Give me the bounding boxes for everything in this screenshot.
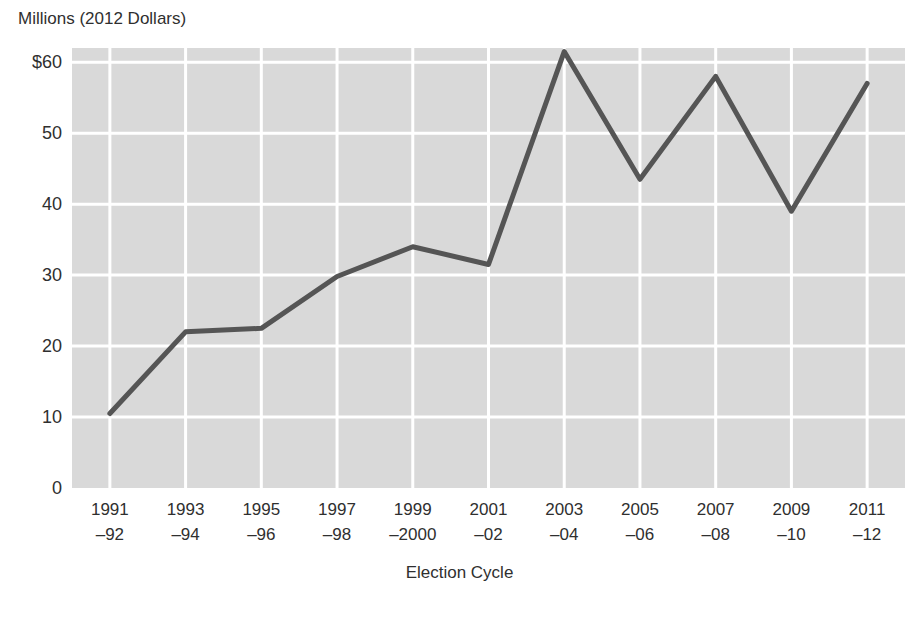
y-tick-label: 20 (42, 335, 62, 357)
x-tick-line1: 2011 (812, 497, 919, 522)
y-tick-label: 30 (42, 264, 62, 286)
y-tick-label: $60 (32, 51, 62, 73)
x-tick-line2: –12 (812, 522, 919, 547)
x-axis-tick-labels: 1991–921993–941995–961997–981999–2000200… (72, 497, 905, 555)
plot-area (72, 48, 905, 488)
x-axis-title: Election Cycle (0, 562, 919, 584)
y-axis-tick-labels: 01020304050$60 (0, 48, 62, 488)
y-tick-label: 40 (42, 193, 62, 215)
y-tick-label: 0 (52, 477, 62, 499)
y-tick-label: 10 (42, 406, 62, 428)
x-tick-label: 2011–12 (812, 497, 919, 547)
y-tick-label: 50 (42, 122, 62, 144)
series-line (72, 48, 905, 488)
y-axis-title: Millions (2012 Dollars) (18, 8, 186, 30)
line-chart: Millions (2012 Dollars) 01020304050$60 1… (0, 0, 919, 620)
